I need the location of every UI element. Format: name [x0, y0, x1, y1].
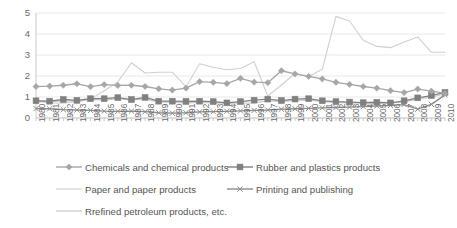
x-tick-label: 2010: [448, 104, 456, 122]
plot-area: 543210 198019811982198319841985198619871…: [0, 0, 449, 160]
data-point-marker: [415, 86, 421, 92]
data-point-marker: [251, 97, 257, 103]
y-tick-label: 2: [4, 71, 30, 81]
data-point-marker: [319, 76, 325, 82]
chart-legend: Chemicals and chemical productsRubber an…: [0, 158, 449, 228]
x-tick-label: 1992: [203, 104, 211, 122]
legend-row: Chemicals and chemical productsRubber an…: [0, 160, 449, 180]
data-point-marker: [360, 83, 366, 89]
x-tick-label: 1985: [108, 104, 116, 122]
y-tick-label: 3: [4, 50, 30, 60]
x-tick-label: 1996: [258, 104, 266, 122]
data-point-marker: [346, 81, 352, 87]
x-tick-label: 1989: [162, 104, 170, 122]
legend-label: Rrefined petroleum products, etc.: [85, 206, 227, 217]
data-point-marker: [183, 85, 189, 91]
data-point-marker: [156, 86, 162, 92]
data-point-marker: [306, 96, 312, 102]
data-point-marker: [33, 83, 39, 89]
data-point-marker: [306, 73, 312, 79]
series-chemicals-and-chemical-products: [33, 68, 448, 97]
data-point-marker: [415, 95, 421, 101]
y-tick-label: 0: [4, 113, 30, 123]
x-tick-label: 2008: [421, 104, 429, 122]
legend-marker-square-icon: [227, 161, 253, 173]
data-point-marker: [60, 97, 66, 103]
data-point-marker: [251, 79, 257, 85]
legend-row: Paper and paper productsPrinting and pub…: [0, 182, 449, 202]
x-tick-label: 2003: [353, 104, 361, 122]
x-tick-label: 1994: [230, 104, 238, 122]
x-tick-label: 2000: [312, 104, 320, 122]
data-point-marker: [401, 89, 407, 95]
data-point-marker: [128, 82, 134, 88]
y-tick-label: 5: [4, 8, 30, 18]
y-tick-label: 4: [4, 29, 30, 39]
x-tick-label: 1987: [135, 104, 143, 122]
x-tick-label: 2006: [394, 104, 402, 122]
x-tick-label: 1981: [53, 104, 61, 122]
data-point-marker: [319, 98, 325, 104]
x-tick-label: 2001: [326, 104, 334, 122]
x-tick-label: 2007: [408, 104, 416, 122]
legend-item-chemicals-and-chemical-products[interactable]: Chemicals and chemical products: [56, 160, 228, 174]
data-point-marker: [224, 80, 230, 86]
x-tick-label: 1984: [94, 104, 102, 122]
data-point-marker: [101, 82, 107, 88]
data-point-marker: [333, 79, 339, 85]
data-point-marker: [129, 97, 135, 103]
data-point-marker: [387, 88, 393, 94]
y-tick-label: 1: [4, 92, 30, 102]
data-point-marker: [279, 98, 285, 104]
x-tick-label: 1988: [148, 104, 156, 122]
data-point-marker: [374, 85, 380, 91]
x-tick-label: 1999: [298, 104, 306, 122]
data-point-marker: [197, 79, 203, 85]
legend-marker-x-icon: [227, 183, 253, 195]
x-tick-label: 1982: [67, 104, 75, 122]
data-point-marker: [47, 83, 53, 89]
legend-item-rubber-and-plastics-products[interactable]: Rubber and plastics products: [227, 160, 380, 174]
x-tick-label: 1986: [121, 104, 129, 122]
legend-marker-none-icon: [56, 183, 82, 195]
x-tick-label: 1997: [271, 104, 279, 122]
data-point-marker: [142, 83, 148, 89]
data-point-marker: [169, 87, 175, 93]
series-line: [36, 71, 445, 94]
data-point-marker: [60, 82, 66, 88]
x-tick-label: 1980: [39, 104, 47, 122]
data-point-marker: [115, 95, 121, 101]
x-tick-label: 1983: [80, 104, 88, 122]
legend-marker-none-icon: [56, 205, 82, 217]
legend-label: Rubber and plastics products: [256, 162, 380, 173]
series-line: [36, 16, 445, 103]
data-point-marker: [142, 95, 148, 101]
legend-row: Rrefined petroleum products, etc.: [0, 204, 449, 224]
x-tick-label: 2004: [367, 104, 375, 122]
data-point-marker: [74, 97, 80, 103]
data-point-marker: [265, 96, 271, 102]
x-tick-label: 1995: [244, 104, 252, 122]
x-tick-label: 2009: [435, 104, 443, 122]
x-tick-label: 1990: [176, 104, 184, 122]
x-tick-label: 2002: [339, 104, 347, 122]
legend-item-printing-and-publishing[interactable]: Printing and publishing: [227, 182, 353, 196]
legend-marker-diamond-icon: [56, 161, 82, 173]
series-paper-and-paper-products: [36, 16, 445, 103]
legend-label: Chemicals and chemical products: [85, 162, 228, 173]
legend-item-rrefined-petroleum-products-etc[interactable]: Rrefined petroleum products, etc.: [56, 204, 227, 218]
data-point-marker: [88, 96, 94, 102]
legend-item-paper-and-paper-products[interactable]: Paper and paper products: [56, 182, 196, 196]
x-tick-label: 2005: [380, 104, 388, 122]
data-point-marker: [87, 84, 93, 90]
x-tick-label: 1991: [189, 104, 197, 122]
x-tick-label: 1998: [285, 104, 293, 122]
legend-label: Printing and publishing: [256, 184, 353, 195]
x-tick-label: 1993: [217, 104, 225, 122]
data-point-marker: [292, 96, 298, 102]
legend-label: Paper and paper products: [85, 184, 196, 195]
data-point-marker: [210, 79, 216, 85]
data-point-marker: [101, 96, 107, 102]
plot-svg: [0, 0, 449, 160]
